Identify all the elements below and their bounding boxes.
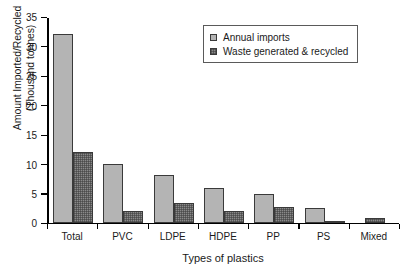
y-axis-tick-label: 15: [26, 130, 37, 141]
x-axis-category-label: PS: [317, 231, 330, 242]
y-axis-tick: 25: [41, 76, 47, 77]
y-axis-title-line-1: Amount Imported/Recycled: [11, 6, 24, 130]
x-axis-tick: [399, 224, 400, 229]
bar: [224, 211, 244, 223]
x-axis-tick: [349, 224, 350, 229]
bar: [154, 175, 174, 222]
bar: [174, 203, 194, 222]
y-axis-tick-label: 20: [26, 100, 37, 111]
y-axis-tick: 35: [41, 17, 47, 18]
y-axis-tick: 10: [41, 164, 47, 165]
x-axis-category-label: PP: [267, 231, 280, 242]
x-axis-tick: [97, 224, 98, 229]
y-axis-tick-label: 25: [26, 71, 37, 82]
bar: [204, 188, 224, 222]
y-axis-tick: 20: [41, 105, 47, 106]
x-axis-tick: [298, 224, 299, 229]
x-axis-line: [47, 223, 399, 225]
legend-item-waste-generated-recycled: Waste generated & recycled: [210, 44, 348, 58]
y-axis-title-line-2: (Thousand tonnes): [24, 25, 37, 111]
x-axis-category-label: Total: [62, 231, 83, 242]
y-axis-title: Amount Imported/Recycled (Thousand tonne…: [0, 0, 48, 168]
legend-swatch-annual-imports: [210, 34, 217, 41]
y-axis-tick: 5: [41, 193, 47, 194]
bar: [274, 207, 294, 222]
x-axis-category-label: HDPE: [209, 231, 237, 242]
x-axis-tick: [198, 224, 199, 229]
bar: [305, 208, 325, 223]
bar: [325, 221, 345, 223]
y-axis-tick: 15: [41, 135, 47, 136]
y-axis-tick-label: 10: [26, 159, 37, 170]
x-axis-tick: [148, 224, 149, 229]
legend-label-annual-imports: Annual imports: [223, 32, 290, 43]
x-axis-category-label: PVC: [112, 231, 133, 242]
bar: [254, 194, 274, 222]
legend-item-annual-imports: Annual imports: [210, 30, 348, 44]
x-axis-category-label: Mixed: [361, 231, 388, 242]
y-axis-tick-label: 5: [31, 188, 37, 199]
bar-group: [48, 18, 98, 223]
bar-group: [98, 18, 148, 223]
x-axis-tick: [47, 224, 48, 229]
y-axis-tick: 30: [41, 46, 47, 47]
legend-label-waste-generated-recycled: Waste generated & recycled: [223, 46, 348, 57]
bar: [53, 34, 73, 222]
bar: [123, 211, 143, 223]
y-axis-tick-label: 35: [26, 12, 37, 23]
x-axis-tick: [248, 224, 249, 229]
x-axis-title: Types of plastics: [47, 252, 399, 264]
bar: [103, 164, 123, 223]
bar-chart: Amount Imported/Recycled (Thousand tonne…: [0, 0, 411, 275]
x-axis-category-label: LDPE: [160, 231, 186, 242]
bar: [73, 152, 93, 223]
chart-legend: Annual imports Waste generated & recycle…: [203, 25, 358, 63]
y-axis-tick-label: 30: [26, 41, 37, 52]
y-axis-tick-label: 0: [31, 218, 37, 229]
bar: [365, 218, 385, 222]
bar-group: [149, 18, 199, 223]
legend-swatch-waste-generated-recycled: [210, 48, 217, 55]
